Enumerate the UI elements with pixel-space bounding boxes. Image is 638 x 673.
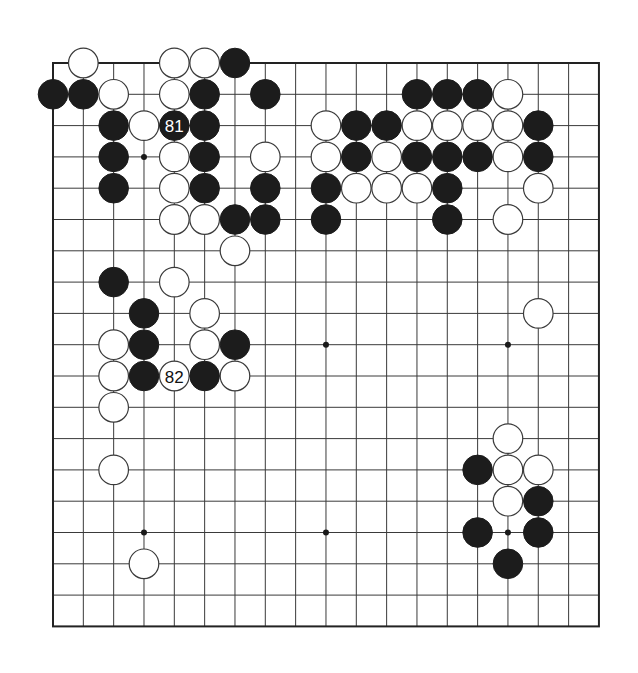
white-stone xyxy=(372,142,402,172)
hoshi-point xyxy=(323,342,329,348)
white-stone xyxy=(432,111,462,141)
black-stone xyxy=(38,80,68,110)
black-stone xyxy=(311,205,341,235)
black-stone xyxy=(432,205,462,235)
black-stone xyxy=(220,205,250,235)
black-stone xyxy=(523,486,553,516)
black-stone xyxy=(190,80,220,110)
white-stone xyxy=(99,80,129,110)
black-stone xyxy=(69,80,99,110)
black-stone xyxy=(99,111,129,141)
numbered-white-stone: 82 xyxy=(160,361,190,391)
black-stone xyxy=(190,142,220,172)
black-stone xyxy=(432,173,462,203)
white-stone xyxy=(190,48,220,78)
white-stone xyxy=(160,173,190,203)
white-stone xyxy=(342,173,372,203)
white-stone xyxy=(523,173,553,203)
white-stone xyxy=(160,205,190,235)
white-stone xyxy=(160,267,190,297)
numbered-black-stone: 81 xyxy=(160,111,190,141)
white-stone xyxy=(160,48,190,78)
black-stone xyxy=(372,111,402,141)
black-stone xyxy=(251,173,281,203)
white-stone xyxy=(160,80,190,110)
hoshi-point xyxy=(505,530,511,536)
white-stone xyxy=(129,111,159,141)
black-stone xyxy=(220,330,250,360)
black-stone xyxy=(463,455,493,485)
white-stone xyxy=(190,205,220,235)
black-stone xyxy=(129,299,159,329)
hoshi-point xyxy=(141,154,147,160)
white-stone xyxy=(311,142,341,172)
black-stone xyxy=(190,111,220,141)
black-stone xyxy=(190,361,220,391)
black-stone xyxy=(190,173,220,203)
black-stone xyxy=(523,111,553,141)
hoshi-point xyxy=(141,530,147,536)
black-stone xyxy=(523,518,553,548)
white-stone xyxy=(523,455,553,485)
white-stone xyxy=(493,424,523,454)
white-stone xyxy=(190,299,220,329)
white-stone xyxy=(99,361,129,391)
black-stone xyxy=(402,80,432,110)
black-stone xyxy=(463,80,493,110)
black-stone xyxy=(311,173,341,203)
black-stone xyxy=(251,80,281,110)
black-stone xyxy=(402,142,432,172)
move-number-label: 81 xyxy=(165,117,184,136)
black-stone xyxy=(99,142,129,172)
white-stone xyxy=(99,393,129,423)
black-stone xyxy=(342,142,372,172)
white-stone xyxy=(402,173,432,203)
white-stone xyxy=(493,486,523,516)
white-stone xyxy=(129,549,159,579)
black-stone xyxy=(432,142,462,172)
white-stone xyxy=(463,111,493,141)
black-stone xyxy=(432,80,462,110)
black-stone xyxy=(251,205,281,235)
black-stone xyxy=(220,48,250,78)
white-stone xyxy=(493,142,523,172)
black-stone xyxy=(99,267,129,297)
white-stone xyxy=(493,205,523,235)
black-stone xyxy=(463,142,493,172)
black-stone xyxy=(493,549,523,579)
white-stone xyxy=(493,111,523,141)
white-stone xyxy=(99,330,129,360)
hoshi-point xyxy=(505,342,511,348)
white-stone xyxy=(69,48,99,78)
black-stone xyxy=(463,518,493,548)
hoshi-point xyxy=(323,530,329,536)
black-stone xyxy=(129,330,159,360)
white-stone xyxy=(99,455,129,485)
white-stone xyxy=(220,236,250,266)
move-number-label: 82 xyxy=(165,368,184,387)
white-stone xyxy=(160,142,190,172)
white-stone xyxy=(220,361,250,391)
white-stone xyxy=(493,455,523,485)
black-stone xyxy=(342,111,372,141)
white-stone xyxy=(251,142,281,172)
black-stone xyxy=(523,142,553,172)
black-stone xyxy=(129,361,159,391)
white-stone xyxy=(402,111,432,141)
black-stone xyxy=(99,173,129,203)
white-stone xyxy=(311,111,341,141)
white-stone xyxy=(372,173,402,203)
white-stone xyxy=(523,299,553,329)
go-board[interactable]: 8182 xyxy=(0,0,638,673)
white-stone xyxy=(190,330,220,360)
white-stone xyxy=(493,80,523,110)
